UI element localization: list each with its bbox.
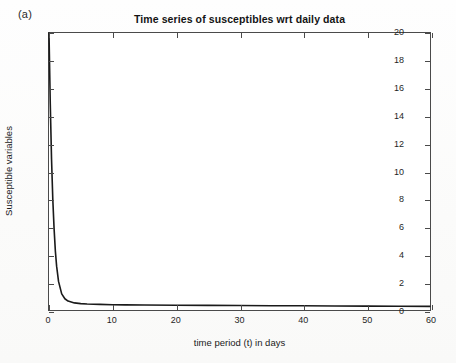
y-axis-tick <box>49 228 54 229</box>
plot-area <box>48 32 431 311</box>
y-axis-tick <box>49 89 54 90</box>
y-axis-tick <box>425 200 430 201</box>
y-axis-tick <box>49 173 54 174</box>
x-axis-tick <box>113 305 114 310</box>
y-axis-tick <box>425 89 430 90</box>
y-axis-tick <box>49 145 54 146</box>
y-axis-tick-label: 8 <box>399 194 404 204</box>
y-axis-tick <box>425 61 430 62</box>
y-axis-tick-label: 18 <box>394 55 404 65</box>
y-axis-tick <box>425 117 430 118</box>
series-line-susceptible <box>49 33 430 306</box>
x-axis-tick-label: 50 <box>362 315 372 325</box>
y-axis-tick-label: 16 <box>394 83 404 93</box>
x-axis-tick <box>241 33 242 38</box>
y-axis-tick-label: 20 <box>394 27 404 37</box>
x-axis-tick <box>304 33 305 38</box>
x-axis-tick <box>432 305 433 310</box>
y-axis-tick <box>425 312 430 313</box>
x-axis-tick-label: 40 <box>298 315 308 325</box>
x-axis-tick <box>177 33 178 38</box>
x-axis-tick-label: 10 <box>107 315 117 325</box>
y-axis-tick <box>49 312 54 313</box>
figure-page: (a) Time series of susceptibles wrt dail… <box>0 0 456 363</box>
y-axis-tick-label: 0 <box>399 306 404 316</box>
x-axis-tick <box>177 305 178 310</box>
y-axis-tick <box>49 61 54 62</box>
chart-title: Time series of susceptibles wrt daily da… <box>48 13 431 25</box>
x-axis-tick <box>304 305 305 310</box>
y-axis-tick-label: 4 <box>399 250 404 260</box>
y-axis-tick <box>49 284 54 285</box>
y-axis-tick-label: 10 <box>394 167 404 177</box>
x-axis-tick <box>241 305 242 310</box>
x-axis-tick-label: 0 <box>45 315 50 325</box>
y-axis-tick <box>49 117 54 118</box>
y-axis-tick-label: 14 <box>394 111 404 121</box>
panel-label: (a) <box>18 8 32 20</box>
x-axis-tick <box>368 33 369 38</box>
y-axis-tick <box>425 145 430 146</box>
x-axis-label: time period (t) in days <box>48 337 431 348</box>
y-axis-tick-label: 12 <box>394 139 404 149</box>
y-axis-tick-label: 2 <box>399 278 404 288</box>
x-axis-tick <box>49 33 50 38</box>
y-axis-tick <box>425 228 430 229</box>
x-axis-tick-label: 20 <box>171 315 181 325</box>
y-axis-tick <box>425 284 430 285</box>
y-axis-label: Susceptible variables <box>3 126 14 216</box>
y-axis-tick <box>425 173 430 174</box>
x-axis-tick-label: 60 <box>426 315 436 325</box>
y-axis-tick <box>425 256 430 257</box>
y-axis-tick <box>425 33 430 34</box>
x-axis-tick <box>432 33 433 38</box>
x-axis-tick <box>368 305 369 310</box>
y-axis-tick-label: 6 <box>399 222 404 232</box>
x-axis-tick <box>113 33 114 38</box>
x-axis-tick-label: 30 <box>234 315 244 325</box>
x-axis-tick <box>49 305 50 310</box>
y-axis-tick <box>49 256 54 257</box>
series-curve-svg <box>49 33 430 311</box>
y-axis-tick <box>49 200 54 201</box>
